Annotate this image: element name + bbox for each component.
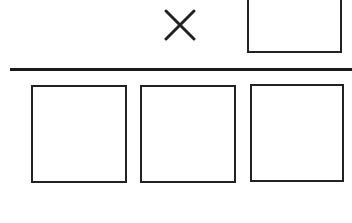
multiplier-box[interactable] — [247, 0, 342, 53]
product-box-tens[interactable] — [140, 85, 236, 183]
product-box-ones[interactable] — [250, 84, 344, 182]
multiply-icon — [163, 8, 197, 42]
product-box-hundreds[interactable] — [31, 85, 127, 183]
product-line — [10, 68, 352, 71]
